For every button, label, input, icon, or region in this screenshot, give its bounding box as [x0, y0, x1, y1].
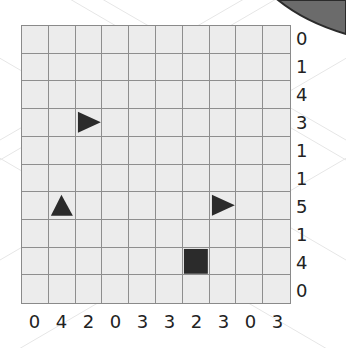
- grid-cell[interactable]: [22, 54, 49, 82]
- grid-cell[interactable]: [102, 137, 129, 165]
- grid-cell[interactable]: [129, 81, 156, 109]
- grid-cell[interactable]: [236, 248, 263, 276]
- grid-cell[interactable]: [49, 81, 76, 109]
- grid-cell[interactable]: [76, 137, 103, 165]
- grid-cell[interactable]: [210, 26, 237, 54]
- grid-cell[interactable]: [76, 275, 103, 303]
- grid-cell[interactable]: [49, 220, 76, 248]
- grid-cell[interactable]: [22, 220, 49, 248]
- grid-cell[interactable]: [263, 26, 290, 54]
- grid-cell[interactable]: [129, 248, 156, 276]
- grid-cell[interactable]: [76, 54, 103, 82]
- grid-cell[interactable]: [183, 109, 210, 137]
- grid-cell[interactable]: [76, 26, 103, 54]
- grid-cell[interactable]: [183, 275, 210, 303]
- grid-cell[interactable]: [102, 26, 129, 54]
- grid-cell[interactable]: [210, 275, 237, 303]
- grid-cell[interactable]: [129, 26, 156, 54]
- grid-cell[interactable]: [49, 192, 76, 220]
- grid-cell[interactable]: [263, 81, 290, 109]
- grid-cell[interactable]: [210, 109, 237, 137]
- grid-cell[interactable]: [156, 54, 183, 82]
- grid-cell[interactable]: [49, 137, 76, 165]
- grid-cell[interactable]: [49, 275, 76, 303]
- grid-cell[interactable]: [156, 137, 183, 165]
- grid-cell[interactable]: [156, 220, 183, 248]
- grid-cell[interactable]: [263, 165, 290, 193]
- grid-cell[interactable]: [22, 248, 49, 276]
- grid-cell[interactable]: [49, 54, 76, 82]
- grid-cell[interactable]: [210, 165, 237, 193]
- grid-cell[interactable]: [22, 81, 49, 109]
- grid-cell[interactable]: [156, 109, 183, 137]
- grid-cell[interactable]: [22, 109, 49, 137]
- grid-cell[interactable]: [129, 220, 156, 248]
- grid-cell[interactable]: [76, 165, 103, 193]
- grid-cell[interactable]: [129, 109, 156, 137]
- grid-cell[interactable]: [210, 248, 237, 276]
- grid-cell[interactable]: [156, 192, 183, 220]
- grid-cell[interactable]: [49, 26, 76, 54]
- grid-cell[interactable]: [49, 109, 76, 137]
- grid-cell[interactable]: [102, 192, 129, 220]
- grid-cell[interactable]: [236, 26, 263, 54]
- grid-cell[interactable]: [102, 165, 129, 193]
- grid-cell[interactable]: [49, 165, 76, 193]
- grid-cell[interactable]: [22, 192, 49, 220]
- grid-cell[interactable]: [156, 26, 183, 54]
- grid-cell[interactable]: [210, 54, 237, 82]
- grid-cell[interactable]: [76, 248, 103, 276]
- grid-cell[interactable]: [236, 81, 263, 109]
- grid-cell[interactable]: [263, 275, 290, 303]
- grid-cell[interactable]: [129, 165, 156, 193]
- grid-cell[interactable]: [76, 109, 103, 137]
- grid-cell[interactable]: [183, 192, 210, 220]
- grid-cell[interactable]: [183, 81, 210, 109]
- grid-cell[interactable]: [210, 137, 237, 165]
- grid-cell[interactable]: [129, 192, 156, 220]
- grid-cell[interactable]: [183, 54, 210, 82]
- grid-cell[interactable]: [129, 137, 156, 165]
- grid-cell[interactable]: [102, 248, 129, 276]
- grid-cell[interactable]: [263, 109, 290, 137]
- grid-cell[interactable]: [156, 165, 183, 193]
- grid-cell[interactable]: [22, 137, 49, 165]
- grid-cell[interactable]: [102, 220, 129, 248]
- grid-cell[interactable]: [49, 248, 76, 276]
- grid-cell[interactable]: [76, 220, 103, 248]
- grid-cell[interactable]: [210, 192, 237, 220]
- grid-cell[interactable]: [183, 165, 210, 193]
- grid-cell[interactable]: [102, 54, 129, 82]
- grid-cell[interactable]: [236, 275, 263, 303]
- grid-cell[interactable]: [236, 192, 263, 220]
- grid-cell[interactable]: [210, 220, 237, 248]
- grid-cell[interactable]: [102, 81, 129, 109]
- grid-cell[interactable]: [183, 248, 210, 276]
- grid-cell[interactable]: [263, 248, 290, 276]
- grid-cell[interactable]: [156, 248, 183, 276]
- grid-cell[interactable]: [263, 220, 290, 248]
- grid-cell[interactable]: [236, 109, 263, 137]
- grid-cell[interactable]: [263, 137, 290, 165]
- grid-cell[interactable]: [263, 54, 290, 82]
- grid-cell[interactable]: [102, 109, 129, 137]
- grid-cell[interactable]: [263, 192, 290, 220]
- grid-cell[interactable]: [129, 54, 156, 82]
- grid-cell[interactable]: [76, 81, 103, 109]
- grid-cell[interactable]: [22, 26, 49, 54]
- grid-cell[interactable]: [156, 275, 183, 303]
- grid-cell[interactable]: [236, 165, 263, 193]
- grid-cell[interactable]: [236, 137, 263, 165]
- grid-cell[interactable]: [183, 137, 210, 165]
- grid-cell[interactable]: [76, 192, 103, 220]
- grid-cell[interactable]: [210, 81, 237, 109]
- grid-cell[interactable]: [236, 54, 263, 82]
- grid-cell[interactable]: [183, 220, 210, 248]
- grid-cell[interactable]: [22, 165, 49, 193]
- grid-cell[interactable]: [102, 275, 129, 303]
- grid-cell[interactable]: [156, 81, 183, 109]
- grid-cell[interactable]: [22, 275, 49, 303]
- grid-cell[interactable]: [129, 275, 156, 303]
- grid-cell[interactable]: [236, 220, 263, 248]
- grid-cell[interactable]: [183, 26, 210, 54]
